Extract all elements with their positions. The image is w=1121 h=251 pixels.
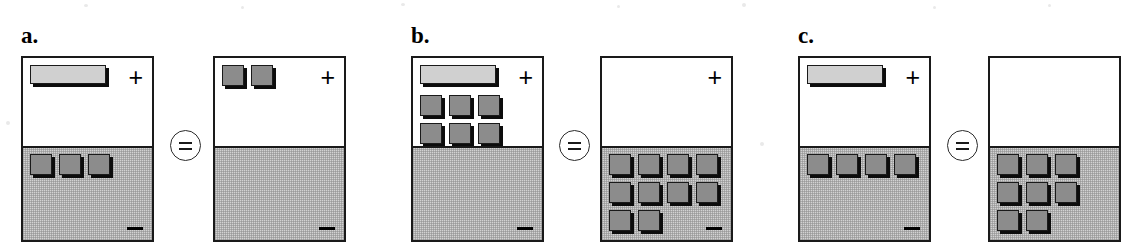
tile-row — [609, 210, 729, 234]
unit-tile[interactable] — [88, 154, 110, 175]
tile-row — [30, 65, 150, 91]
unit-tile[interactable] — [478, 95, 500, 116]
unit-tile[interactable] — [696, 182, 718, 203]
equals-icon — [956, 142, 969, 150]
equals-icon — [568, 142, 581, 150]
minus-icon — [904, 227, 920, 230]
unit-tile[interactable] — [420, 123, 442, 144]
unit-tile[interactable] — [59, 154, 81, 175]
page-speckle — [84, 4, 88, 7]
equals-operator-a — [170, 130, 201, 161]
tile-row — [30, 154, 150, 178]
bar-tile[interactable] — [420, 65, 496, 84]
unit-tile[interactable] — [836, 154, 858, 175]
negative-region[interactable] — [215, 148, 344, 240]
unit-tile[interactable] — [1026, 154, 1048, 175]
page-speckle — [760, 142, 764, 146]
tile-row — [997, 182, 1117, 206]
positive-region[interactable]: + — [215, 58, 344, 148]
negative-region[interactable] — [602, 148, 731, 240]
panel-label-c: c. — [798, 24, 814, 47]
bar-tile[interactable] — [30, 65, 106, 84]
unit-tile[interactable] — [1026, 182, 1048, 203]
tile-group-positive — [420, 65, 540, 148]
positive-region[interactable]: + — [23, 58, 152, 148]
unit-tile[interactable] — [30, 154, 52, 175]
positive-region[interactable]: + — [602, 58, 731, 148]
unit-tile[interactable] — [997, 210, 1019, 231]
unit-tile[interactable] — [638, 182, 660, 203]
tile-row — [997, 210, 1117, 234]
unit-tile[interactable] — [449, 123, 471, 144]
tile-row — [609, 154, 729, 178]
negative-region[interactable] — [23, 148, 152, 240]
panel-label-a: a. — [21, 24, 38, 47]
unit-tile[interactable] — [807, 154, 829, 175]
panel-b-right-balance-box[interactable]: + — [600, 56, 733, 242]
tile-group-negative — [609, 154, 729, 238]
unit-tile[interactable] — [609, 182, 631, 203]
equals-operator-b — [559, 130, 590, 161]
positive-region[interactable]: + — [800, 58, 929, 148]
page-speckle — [401, 3, 405, 6]
panel-a-left-balance-box[interactable]: + — [21, 56, 154, 242]
tile-group-negative — [997, 154, 1117, 238]
tile-row — [420, 65, 540, 91]
panel-label-b: b. — [411, 24, 430, 47]
unit-tile[interactable] — [865, 154, 887, 175]
tile-group-positive — [30, 65, 150, 95]
panel-c-right-balance-box[interactable] — [988, 56, 1121, 242]
positive-region[interactable] — [990, 58, 1119, 148]
page-speckle — [742, 3, 746, 7]
bar-tile[interactable] — [807, 65, 883, 84]
minus-icon — [517, 227, 533, 230]
tile-row — [807, 154, 927, 178]
unit-tile[interactable] — [667, 154, 689, 175]
tile-row — [420, 95, 540, 119]
unit-tile[interactable] — [478, 123, 500, 144]
tile-row — [222, 65, 342, 89]
unit-tile[interactable] — [997, 154, 1019, 175]
panel-b-left-balance-box[interactable]: + — [411, 56, 544, 242]
tile-row — [807, 65, 927, 91]
minus-icon — [319, 227, 335, 230]
unit-tile[interactable] — [696, 154, 718, 175]
minus-icon — [127, 227, 143, 230]
page-speckle — [6, 121, 10, 125]
unit-tile[interactable] — [251, 65, 273, 86]
unit-tile[interactable] — [1055, 154, 1077, 175]
unit-tile[interactable] — [449, 95, 471, 116]
unit-tile[interactable] — [420, 95, 442, 116]
unit-tile[interactable] — [609, 210, 631, 231]
page-speckle — [933, 6, 936, 9]
positive-region[interactable]: + — [413, 58, 542, 148]
equals-operator-c — [947, 130, 978, 161]
panel-a-right-balance-box[interactable]: + — [213, 56, 346, 242]
page-speckle — [241, 6, 244, 9]
unit-tile[interactable] — [609, 154, 631, 175]
tile-row — [997, 154, 1117, 178]
negative-region[interactable] — [990, 148, 1119, 240]
tile-group-negative — [807, 154, 927, 182]
equals-icon — [179, 142, 192, 150]
unit-tile[interactable] — [667, 182, 689, 203]
tile-row — [420, 123, 540, 147]
negative-region[interactable] — [413, 148, 542, 240]
tile-row — [609, 182, 729, 206]
page-speckle — [617, 5, 620, 8]
tile-group-positive — [222, 65, 342, 93]
unit-tile[interactable] — [1055, 182, 1077, 203]
unit-tile[interactable] — [894, 154, 916, 175]
unit-tile[interactable] — [638, 210, 660, 231]
negative-region[interactable] — [800, 148, 929, 240]
tile-group-positive — [807, 65, 927, 95]
plus-icon: + — [707, 65, 722, 90]
unit-tile[interactable] — [1026, 210, 1048, 231]
unit-tile[interactable] — [997, 182, 1019, 203]
page-speckle — [1048, 4, 1051, 7]
unit-tile[interactable] — [638, 154, 660, 175]
panel-c-left-balance-box[interactable]: + — [798, 56, 931, 242]
unit-tile[interactable] — [222, 65, 244, 86]
tile-group-negative — [30, 154, 150, 182]
